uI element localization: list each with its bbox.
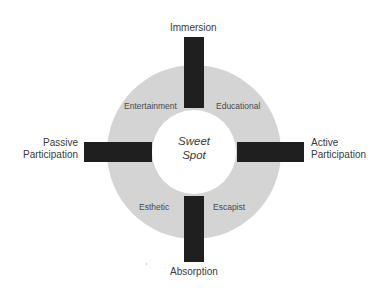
axis-label-active-line2: Participation xyxy=(311,149,366,161)
axis-label-passive-participation: Passive Participation xyxy=(23,137,78,161)
sweet-spot-line2: Spot xyxy=(152,148,236,162)
axis-bar-active xyxy=(237,142,304,162)
quadrant-esthetic: Esthetic xyxy=(139,201,169,213)
axis-label-passive-line2: Participation xyxy=(23,149,78,161)
sweet-spot-line1: Sweet xyxy=(152,134,236,148)
axis-label-active-line1: Active xyxy=(311,137,366,149)
axis-bar-passive xyxy=(84,142,152,162)
quadrant-educational: Educational xyxy=(216,100,260,112)
axis-label-active-participation: Active Participation xyxy=(311,137,366,161)
sweet-spot-label: Sweet Spot xyxy=(152,134,236,162)
quadrant-entertainment: Entertainment xyxy=(124,100,177,112)
axis-bar-absorption xyxy=(184,196,204,262)
axis-label-absorption: Absorption xyxy=(170,266,218,278)
quadrant-escapist: Escapist xyxy=(213,201,245,213)
scan-artifact xyxy=(146,263,147,265)
axis-label-immersion: Immersion xyxy=(170,22,217,34)
experience-realms-diagram: Immersion Absorption Passive Participati… xyxy=(0,0,387,292)
axis-bar-immersion xyxy=(184,37,204,108)
axis-label-passive-line1: Passive xyxy=(23,137,78,149)
